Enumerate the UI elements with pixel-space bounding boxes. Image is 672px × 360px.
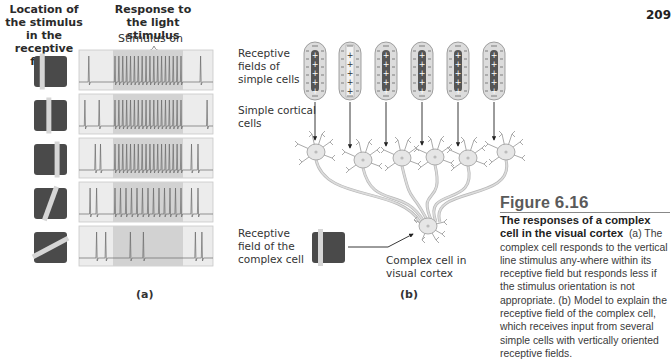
svg-text:+: + bbox=[383, 87, 390, 96]
svg-text:+: + bbox=[419, 87, 426, 96]
svg-text:+: + bbox=[312, 78, 319, 87]
svg-text:+: + bbox=[347, 69, 354, 78]
svg-text:+: + bbox=[312, 69, 319, 78]
svg-text:+: + bbox=[419, 69, 426, 78]
svg-text:+: + bbox=[383, 60, 390, 69]
figure-caption-text: (a) The complex cell responds to the ver… bbox=[500, 228, 667, 359]
simple-cell-receptive-field: +++++ bbox=[375, 42, 397, 100]
svg-text:+: + bbox=[419, 78, 426, 87]
svg-text:+: + bbox=[491, 87, 498, 96]
svg-text:+: + bbox=[491, 69, 498, 78]
svg-text:+: + bbox=[455, 69, 462, 78]
simple-cortical-cell bbox=[381, 137, 421, 171]
figure-label: Figure 6.16 bbox=[500, 193, 589, 213]
svg-text:+: + bbox=[312, 51, 319, 60]
figure-title: The responses of a complex cell in the v… bbox=[500, 214, 650, 239]
simple-cell-receptive-field: +++++ bbox=[447, 42, 469, 100]
figure-number: 6.16 bbox=[555, 193, 589, 212]
simple-cortical-cell bbox=[447, 137, 487, 171]
svg-text:+: + bbox=[419, 60, 426, 69]
svg-text:+: + bbox=[491, 78, 498, 87]
simple-cell-receptive-field: +++++ bbox=[304, 42, 326, 100]
svg-text:+: + bbox=[419, 51, 426, 60]
svg-text:+: + bbox=[491, 51, 498, 60]
svg-text:+: + bbox=[455, 87, 462, 96]
svg-text:+: + bbox=[383, 51, 390, 60]
axon bbox=[316, 160, 420, 222]
svg-text:+: + bbox=[455, 60, 462, 69]
simple-cell-receptive-field: +++++ bbox=[483, 42, 505, 100]
svg-text:+: + bbox=[383, 69, 390, 78]
simple-cell-receptive-field: +++++ bbox=[339, 42, 361, 100]
svg-text:+: + bbox=[347, 60, 354, 69]
figure-word: Figure bbox=[500, 194, 550, 211]
svg-text:+: + bbox=[383, 78, 390, 87]
svg-text:+: + bbox=[455, 78, 462, 87]
simple-cortical-cell bbox=[342, 139, 382, 173]
axon bbox=[439, 160, 507, 222]
figure-caption: The responses of a complex cell in the v… bbox=[500, 214, 672, 360]
complex-cell-receptive-field bbox=[312, 229, 345, 266]
svg-text:+: + bbox=[347, 87, 354, 96]
svg-text:+: + bbox=[491, 60, 498, 69]
figure-rule bbox=[500, 212, 670, 213]
svg-text:+: + bbox=[347, 51, 354, 60]
svg-text:+: + bbox=[312, 60, 319, 69]
svg-text:+: + bbox=[455, 51, 462, 60]
simple-cortical-cell bbox=[485, 131, 525, 165]
simple-cortical-cell bbox=[414, 136, 454, 170]
simple-cell-receptive-field: +++++ bbox=[411, 42, 433, 100]
pointer-arrow bbox=[348, 234, 413, 247]
svg-text:+: + bbox=[347, 78, 354, 87]
svg-text:+: + bbox=[312, 87, 319, 96]
